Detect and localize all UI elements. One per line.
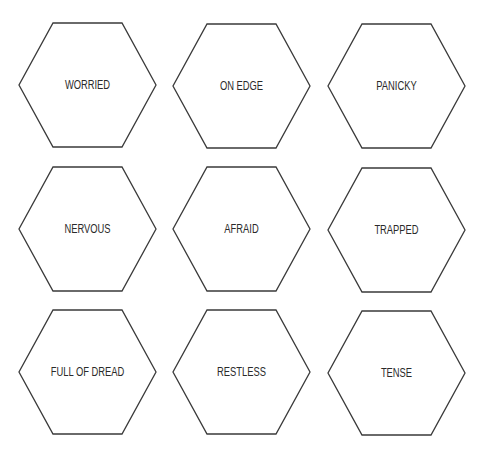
hexagon-card-panicky: PANICKY [328,24,465,148]
hexagon-label: TENSE [343,311,450,435]
hexagon-label: TRAPPED [343,168,450,292]
hexagon-card-worried: WORRIED [19,23,156,147]
hexagon-label: AFRAID [188,167,295,291]
hexagon-card-tense: TENSE [328,311,465,435]
hexagon-label: WORRIED [34,23,141,147]
hexagon-label: ON EDGE [188,24,295,148]
hexagon-label: RESTLESS [188,310,295,434]
hexagon-card-restless: RESTLESS [173,310,310,434]
hexagon-label: NERVOUS [34,167,141,291]
hexagon-card-trapped: TRAPPED [328,168,465,292]
hexagon-label: PANICKY [343,24,450,148]
hexagon-label: FULL OF DREAD [34,310,141,434]
hexagon-card-afraid: AFRAID [173,167,310,291]
hexagon-card-nervous: NERVOUS [19,167,156,291]
hexagon-card-on-edge: ON EDGE [173,24,310,148]
hexagon-card-full-of-dread: FULL OF DREAD [19,310,156,434]
